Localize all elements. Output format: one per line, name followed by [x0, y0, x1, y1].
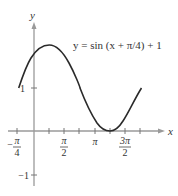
- y-axis-label: y: [29, 9, 35, 21]
- svg-text:−: −: [7, 139, 13, 150]
- y-axis: [31, 22, 37, 186]
- x-tick-pi: π: [92, 136, 98, 147]
- svg-text:4: 4: [15, 147, 20, 158]
- y-axis-arrow-icon: [32, 22, 37, 29]
- sine-curve: [19, 45, 142, 131]
- sine-graph: y x y = sin (x + π/4) + 1 1 −1 − π 4 π 2…: [0, 0, 178, 196]
- y-tick-neg1: −1: [18, 170, 29, 181]
- y-tick-1: 1: [20, 83, 25, 94]
- x-tick-3pi-over-2: 3π 2: [119, 135, 131, 158]
- svg-text:3π: 3π: [119, 135, 131, 146]
- x-tick-neg-pi-over-4: − π 4: [7, 135, 21, 158]
- x-tick-pi-over-2: π 2: [60, 135, 68, 158]
- svg-text:π: π: [61, 135, 67, 146]
- equation-label: y = sin (x + π/4) + 1: [73, 39, 162, 52]
- svg-text:2: 2: [62, 147, 67, 158]
- svg-text:2: 2: [123, 147, 128, 158]
- svg-text:π: π: [14, 135, 20, 146]
- x-axis-label: x: [167, 125, 173, 137]
- x-axis: [8, 128, 165, 134]
- x-axis-arrow-icon: [158, 129, 165, 134]
